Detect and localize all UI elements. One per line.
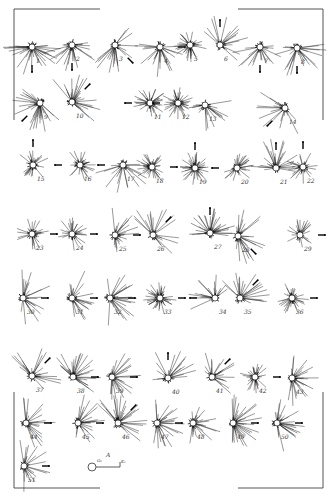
rose-diagram-2: 2 <box>44 39 95 71</box>
diagram-number: 11 <box>154 113 162 120</box>
rose-diagram-25: 25 <box>110 208 142 252</box>
diagram-number: 10 <box>76 112 84 119</box>
diagram-number: 23 <box>35 244 44 251</box>
origin-circle <box>257 44 263 50</box>
rose-diagram-47: 47 <box>152 400 185 449</box>
rose-diagram-35: 35 <box>222 273 269 315</box>
origin-circle <box>157 295 163 301</box>
diagram-number: 8 <box>301 58 305 65</box>
origin-circle <box>273 165 279 171</box>
rose-diagram-31: 31 <box>67 271 99 320</box>
diagram-number: 51 <box>28 476 36 483</box>
rose-diagram-9: 9 <box>13 89 60 131</box>
diagram-number: 14 <box>289 118 297 125</box>
rose-diagram-28: 28 <box>233 210 265 264</box>
diagram-number: 46 <box>121 433 130 440</box>
origin-circle <box>252 374 258 380</box>
rose-diagram-30: 30 <box>18 270 50 325</box>
diagram-group: 1234567891011121314151617181920212223242… <box>3 16 326 492</box>
diagram-number: 29 <box>303 245 312 252</box>
rose-diagram-37: 37 <box>12 349 62 394</box>
rose-diagram-15: 15 <box>20 139 48 182</box>
diagram-number: 26 <box>156 245 165 252</box>
origin-circle <box>120 162 126 168</box>
origin-circle <box>70 374 76 380</box>
origin-circle <box>29 44 35 50</box>
rose-diagram-18: 18 <box>137 154 178 184</box>
mean-direction-arrow <box>267 121 272 126</box>
diagram-number: 20 <box>240 178 249 185</box>
rose-diagram-20: 20 <box>211 154 254 185</box>
rose-diagram-1: 1 <box>3 41 61 74</box>
origin-circle <box>23 420 29 426</box>
rose-diagram-10: 10 <box>53 75 100 121</box>
origin-circle <box>207 230 213 236</box>
diagram-number: 45 <box>81 433 90 440</box>
origin-circle <box>294 45 300 51</box>
origin-circle <box>187 42 193 48</box>
origin-circle <box>20 295 26 301</box>
mean-direction-arrow <box>22 116 27 121</box>
rose-diagram-11: 11 <box>124 89 164 120</box>
diagram-number: 30 <box>27 308 35 315</box>
diagram-number: 3 <box>119 55 123 62</box>
diagram-number: 47 <box>160 433 169 440</box>
origin-circle <box>289 375 295 381</box>
origin-circle <box>230 420 236 426</box>
origin-circle <box>274 420 280 426</box>
origin-circle <box>69 99 75 105</box>
diagram-number: 18 <box>156 177 164 184</box>
legend-label: A <box>105 451 111 458</box>
rose-diagram-27: 27 <box>189 207 235 250</box>
origin-circle <box>112 42 118 48</box>
mean-direction-arrow <box>85 84 90 89</box>
rose-diagram-29: 29 <box>287 219 326 252</box>
origin-circle <box>77 162 83 168</box>
mean-direction-arrow <box>253 280 258 285</box>
origin-circle <box>69 231 75 237</box>
rose-diagram-42: 42 <box>240 364 281 394</box>
diagram-number: 19 <box>199 178 207 185</box>
rose-diagram-figure: 1234567891011121314151617181920212223242… <box>0 0 331 497</box>
origin-circle <box>149 164 155 170</box>
diagram-number: 28 <box>241 246 250 253</box>
diagram-number: 42 <box>258 387 267 394</box>
origin-circle <box>109 374 115 380</box>
rose-diagram-17: 17 <box>96 160 150 193</box>
rose-diagram-16: 16 <box>54 151 96 182</box>
legend-end-label: K₁ <box>120 459 126 464</box>
origin-circle <box>29 231 35 237</box>
diagram-number: 39 <box>116 387 124 394</box>
mean-direction-arrow <box>128 58 133 63</box>
rose-diagram-36: 36 <box>278 284 318 315</box>
diagram-number: 1 <box>36 57 40 64</box>
diagram-number: 16 <box>84 175 92 182</box>
diagram-number: 44 <box>29 433 38 440</box>
legend-start-label: O₁ <box>97 458 102 463</box>
diagram-number: 6 <box>224 55 228 62</box>
origin-circle <box>112 232 118 238</box>
diagram-number: 37 <box>36 386 44 393</box>
rose-diagram-48: 48 <box>188 407 220 443</box>
rose-diagram-44: 44 <box>20 398 55 448</box>
origin-circle <box>209 374 215 380</box>
rose-diagram-38: 38 <box>57 353 101 394</box>
diagram-number: 5 <box>194 55 198 62</box>
origin-circle <box>237 295 243 301</box>
origin-circle <box>234 165 240 171</box>
rose-diagram-46: 46 <box>98 396 147 441</box>
origin-circle <box>202 102 208 108</box>
rose-diagram-3: 3 <box>95 28 138 73</box>
diagram-number: 31 <box>76 308 84 315</box>
origin-circle <box>217 42 223 48</box>
diagram-number: 2 <box>75 55 80 62</box>
frame <box>14 9 323 488</box>
diagram-number: 27 <box>213 243 222 250</box>
origin-circle <box>37 100 43 106</box>
diagram-number: 7 <box>264 57 268 64</box>
origin-circle <box>235 233 241 239</box>
rose-diagram-33: 33 <box>143 282 186 315</box>
origin-circle <box>175 100 181 106</box>
diagram-number: 33 <box>164 308 172 315</box>
rose-diagram-4: 4 <box>135 41 186 77</box>
